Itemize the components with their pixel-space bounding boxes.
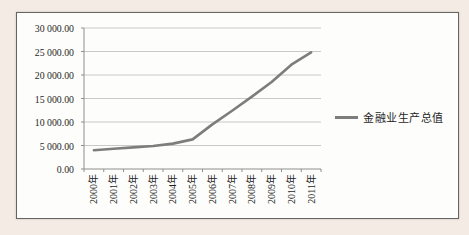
legend-line-sample (335, 116, 358, 119)
scanned-chart-page: 0.005 000.0010 000.0015 000.0020 000.002… (0, 0, 469, 235)
x-axis-label: 2009年 (265, 174, 277, 204)
legend: 金融业生产总值 (335, 109, 444, 125)
y-axis-label: 15 000.00 (35, 94, 74, 105)
chart-frame: 0.005 000.0010 000.0015 000.0020 000.002… (16, 12, 459, 219)
x-axis-label: 2000年 (87, 174, 99, 204)
x-axis-label: 2008年 (245, 174, 257, 204)
y-axis-label: 0.00 (57, 164, 74, 175)
x-axis-label: 2004年 (166, 174, 178, 204)
y-axis-label: 20 000.00 (35, 70, 74, 81)
y-axis-label: 25 000.00 (35, 47, 74, 58)
legend-label: 金融业生产总值 (363, 109, 444, 125)
x-axis-label: 2005年 (186, 174, 198, 204)
series-line (94, 52, 311, 150)
x-axis-label: 2002年 (127, 174, 139, 204)
x-axis-label: 2003年 (147, 174, 159, 204)
x-axis-label: 2010年 (285, 174, 297, 204)
x-axis-label: 2011年 (305, 174, 317, 204)
y-axis-label: 5 000.00 (40, 141, 74, 152)
y-axis-label: 10 000.00 (35, 117, 74, 128)
x-axis-label: 2001年 (107, 174, 119, 204)
x-axis-label: 2006年 (206, 174, 218, 204)
y-axis-label: 30 000.00 (35, 23, 74, 34)
x-axis-label: 2007年 (226, 174, 238, 204)
